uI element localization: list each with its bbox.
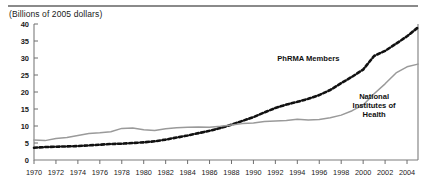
x-tick-label: 1996 xyxy=(311,168,327,177)
x-tick-label: 1978 xyxy=(114,168,130,177)
y-tick-label: 30 xyxy=(21,54,29,63)
series-line-phrma-members xyxy=(34,27,418,147)
x-tick-label: 1986 xyxy=(201,168,217,177)
y-tick-label: 20 xyxy=(21,88,29,97)
x-tick-label: 2002 xyxy=(377,168,393,177)
chart-series xyxy=(34,27,418,147)
series-label-phrma-members: PhRMA Members xyxy=(277,54,339,63)
y-tick-label: 25 xyxy=(21,71,29,80)
x-tick-label: 1994 xyxy=(289,168,305,177)
chart-container: (Billions of 2005 dollars) 0510152025303… xyxy=(0,0,433,195)
x-tick-label: 1972 xyxy=(48,168,64,177)
y-tick-label: 40 xyxy=(21,20,29,29)
x-axis-ticks: 1970197219741976197819801982198419861988… xyxy=(26,160,415,177)
x-tick-label: 2004 xyxy=(399,168,415,177)
series-label-national-institutes-of-health: National xyxy=(359,92,389,101)
x-tick-label: 1980 xyxy=(136,168,152,177)
y-tick-label: 15 xyxy=(21,105,29,114)
y-tick-label: 35 xyxy=(21,37,29,46)
y-tick-label: 5 xyxy=(25,139,29,148)
x-tick-label: 1982 xyxy=(158,168,174,177)
x-tick-label: 1984 xyxy=(179,168,195,177)
x-tick-label: 2000 xyxy=(355,168,371,177)
x-tick-label: 1988 xyxy=(223,168,239,177)
x-tick-label: 1990 xyxy=(245,168,261,177)
x-tick-label: 1992 xyxy=(267,168,283,177)
y-axis-ticks: 0510152025303540 xyxy=(21,20,38,165)
y-tick-label: 10 xyxy=(21,122,29,131)
series-label-national-institutes-of-health: Health xyxy=(363,110,387,119)
x-tick-label: 1970 xyxy=(26,168,42,177)
x-tick-label: 1976 xyxy=(92,168,108,177)
x-tick-label: 1974 xyxy=(70,168,86,177)
x-tick-label: 1998 xyxy=(333,168,349,177)
line-chart-plot: 0510152025303540 19701972197419761978198… xyxy=(0,0,433,195)
y-tick-label: 0 xyxy=(25,156,29,165)
series-label-national-institutes-of-health: Institutes of xyxy=(353,101,397,110)
